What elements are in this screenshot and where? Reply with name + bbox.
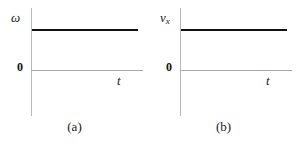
- y-axis-a: [31, 8, 32, 116]
- figure-container: ω 0 t (a) vx 0 t (b): [0, 0, 299, 153]
- origin-label-a: 0: [17, 61, 23, 73]
- x-axis-a: [31, 70, 143, 71]
- x-axis-label-a: t: [117, 74, 121, 87]
- y-axis-label-a-text: ω: [11, 10, 20, 25]
- caption-b: (b): [149, 120, 298, 133]
- caption-a: (a): [0, 120, 149, 133]
- data-line-a: [32, 29, 138, 31]
- chart-panel-a: ω 0 t (a): [0, 0, 149, 153]
- origin-label-b: 0: [166, 61, 172, 73]
- x-axis-label-b: t: [266, 74, 270, 87]
- y-axis-label-b-text: v: [160, 10, 166, 25]
- x-axis-b: [180, 70, 292, 71]
- y-axis-label-b-subscript: x: [166, 16, 170, 26]
- y-axis-label-b: vx: [160, 11, 170, 24]
- y-axis-label-a: ω: [11, 11, 20, 24]
- y-axis-b: [180, 8, 181, 116]
- chart-panel-b: vx 0 t (b): [149, 0, 298, 153]
- data-line-b: [181, 29, 287, 31]
